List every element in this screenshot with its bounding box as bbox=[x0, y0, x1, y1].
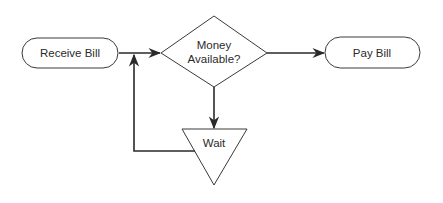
decision-label-line2: Available? bbox=[188, 53, 241, 65]
flowchart-canvas: Receive Bill Money Available? Pay Bill W… bbox=[0, 0, 443, 203]
pay-bill-node: Pay Bill bbox=[325, 37, 420, 68]
receive-bill-label: Receive Bill bbox=[40, 47, 100, 59]
decision-label-line1: Money bbox=[197, 39, 232, 51]
receive-bill-node: Receive Bill bbox=[22, 38, 118, 68]
wait-node: Wait bbox=[182, 129, 247, 185]
money-available-decision-node: Money Available? bbox=[161, 16, 267, 87]
wait-label: Wait bbox=[203, 137, 226, 149]
pay-bill-label: Pay Bill bbox=[353, 47, 391, 59]
